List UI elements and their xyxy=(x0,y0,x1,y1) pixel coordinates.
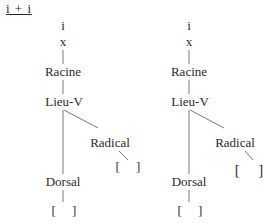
root-node-left: Racine xyxy=(45,65,81,79)
tree-branches xyxy=(0,0,263,223)
segment-node-left: i xyxy=(61,19,65,33)
timing-node-left: x xyxy=(60,35,67,49)
radical-node-right: Radical xyxy=(215,136,255,150)
radical-value-left: [ ] xyxy=(116,160,141,174)
timing-node-right: x xyxy=(186,35,193,49)
dorsal-value-right: [ ] xyxy=(178,204,203,218)
dorsal-value-left: [ ] xyxy=(52,204,77,218)
branch-lieu-radical-right xyxy=(190,110,224,128)
dorsal-node-left: Dorsal xyxy=(46,175,81,189)
root-node-right: Racine xyxy=(171,65,207,79)
place-node-left: Lieu-V xyxy=(45,95,83,109)
radical-node-left: Radical xyxy=(90,136,130,150)
branch-lieu-radical-left xyxy=(64,110,98,128)
segment-node-right: i xyxy=(187,19,191,33)
radical-value-right: [ ] xyxy=(235,163,263,177)
dorsal-node-right: Dorsal xyxy=(172,175,207,189)
branch-radical-value-right xyxy=(245,151,253,160)
place-node-right: Lieu-V xyxy=(171,95,209,109)
